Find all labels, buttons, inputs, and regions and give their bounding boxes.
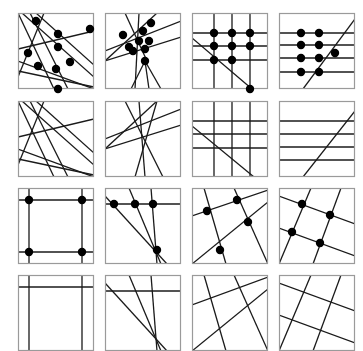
diagram-panel-r3c3: [192, 188, 268, 264]
intersection-point: [326, 211, 334, 219]
intersection-point: [203, 207, 211, 215]
panel-border: [193, 189, 268, 264]
intersection-point: [78, 248, 86, 256]
line: [303, 19, 355, 89]
line: [36, 13, 94, 65]
intersection-point: [141, 57, 149, 65]
diagram-panel-r1c3: [192, 13, 268, 89]
intersection-point: [316, 239, 324, 247]
intersection-point: [228, 56, 236, 64]
diagram-panel-r1c1: [18, 13, 94, 89]
panel-border: [19, 102, 94, 177]
intersection-point: [24, 49, 32, 57]
panel-border: [193, 14, 268, 89]
intersection-point: [331, 49, 339, 57]
line: [313, 275, 341, 351]
line: [192, 277, 268, 305]
intersection-point: [25, 196, 33, 204]
intersection-point: [228, 29, 236, 37]
line: [279, 275, 311, 351]
intersection-point: [297, 41, 305, 49]
line: [313, 188, 341, 264]
panel-border: [280, 102, 355, 177]
panel-border: [106, 189, 181, 264]
intersection-point: [298, 200, 306, 208]
intersection-point: [145, 37, 153, 45]
intersection-point: [246, 42, 254, 50]
intersection-point: [54, 85, 62, 93]
line: [105, 101, 157, 149]
diagram-panel-r4c1: [18, 275, 94, 351]
intersection-point: [297, 68, 305, 76]
diagram-panel-r3c4: [279, 188, 355, 264]
intersection-point: [315, 41, 323, 49]
intersection-point: [297, 54, 305, 62]
panel-border: [193, 276, 268, 351]
diagram-panel-r1c2: [105, 13, 181, 89]
line: [36, 101, 94, 153]
intersection-point: [110, 200, 118, 208]
intersection-point: [288, 228, 296, 236]
diagram-panel-r2c2: [105, 101, 181, 177]
line: [279, 188, 311, 264]
intersection-point: [135, 37, 143, 45]
panel-border: [280, 14, 355, 89]
intersection-point: [228, 42, 236, 50]
diagram-panel-r4c4: [279, 275, 355, 351]
intersection-point: [139, 27, 147, 35]
intersection-point: [315, 54, 323, 62]
intersection-point: [141, 45, 149, 53]
panel-border: [193, 102, 268, 177]
intersection-point: [210, 29, 218, 37]
intersection-point: [129, 47, 137, 55]
diagram-panel-r1c4: [279, 13, 355, 89]
intersection-point: [246, 85, 254, 93]
intersection-point: [315, 29, 323, 37]
intersection-point: [244, 218, 252, 226]
diagram-panel-r4c2: [105, 275, 181, 351]
intersection-point: [147, 19, 155, 27]
intersection-point: [119, 31, 127, 39]
line: [18, 119, 94, 137]
intersection-point: [149, 200, 157, 208]
intersection-point: [297, 29, 305, 37]
diagram-panel-r4c3: [192, 275, 268, 351]
line: [192, 289, 268, 351]
diagram-panel-r2c4: [279, 101, 355, 177]
intersection-point: [216, 246, 224, 254]
diagram-panel-r2c1: [18, 101, 94, 177]
intersection-point: [25, 248, 33, 256]
panel-border: [106, 276, 181, 351]
intersection-point: [233, 196, 241, 204]
intersection-point: [153, 246, 161, 254]
intersection-point: [32, 17, 40, 25]
diagram-panel-r3c1: [18, 188, 94, 264]
intersection-point: [34, 62, 42, 70]
line: [279, 283, 355, 311]
line: [204, 275, 226, 351]
intersection-point: [210, 42, 218, 50]
intersection-point: [86, 25, 94, 33]
intersection-point: [66, 58, 74, 66]
intersection-point: [52, 65, 60, 73]
diagram-panel-r2c3: [192, 101, 268, 177]
intersection-point: [131, 200, 139, 208]
diagram-panel-r3c2: [105, 188, 181, 264]
line: [151, 275, 157, 351]
intersection-point: [315, 68, 323, 76]
intersection-point: [210, 56, 218, 64]
line: [131, 61, 145, 89]
intersection-point: [246, 29, 254, 37]
intersection-point: [54, 30, 62, 38]
intersection-point: [78, 196, 86, 204]
line: [279, 196, 355, 224]
intersection-point: [54, 43, 62, 51]
